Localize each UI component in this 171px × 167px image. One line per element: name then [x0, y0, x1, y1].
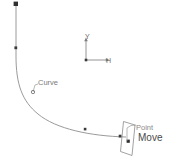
point-label: Point [136, 124, 153, 132]
curve-path[interactable] [16, 4, 126, 137]
plane-handle-shape[interactable] [121, 122, 136, 156]
axis-origin-marker [85, 59, 88, 62]
axis-y-label: Y [85, 33, 90, 40]
diagram-canvas: Curve Point Move Y H [0, 0, 171, 167]
curve-end-point-marker[interactable] [119, 135, 122, 138]
axis-h-label: H [106, 57, 111, 64]
curve-upper-point-marker[interactable] [14, 46, 17, 49]
curve-start-marker[interactable] [14, 2, 18, 6]
curve-mid-point-marker[interactable] [84, 128, 87, 131]
move-label: Move [138, 133, 162, 143]
curve-label: Curve [38, 79, 58, 87]
